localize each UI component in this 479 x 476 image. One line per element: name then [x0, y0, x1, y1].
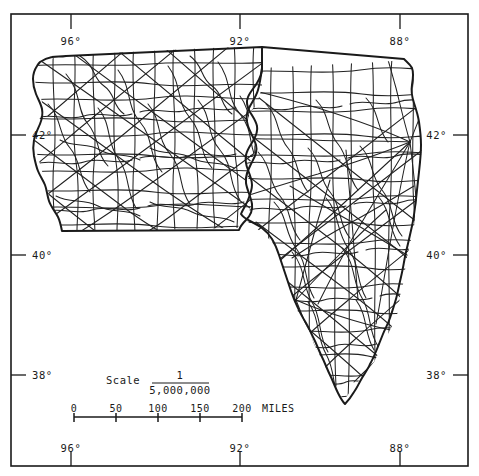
scale-tick-label-150: 150 [190, 403, 210, 414]
scale-tick-label-200: 200 [232, 403, 252, 414]
lon-label-top-88: 88° [390, 35, 411, 47]
lon-label-top-92: 92° [230, 35, 251, 47]
lon-label-bottom-88: 88° [390, 442, 411, 454]
scale-tick-label-0: 0 [71, 403, 78, 414]
scale-units-label: MILES [262, 403, 295, 414]
scale-title-word: Scale [106, 374, 140, 386]
lat-label-right-40: 40° [426, 249, 447, 261]
scale-tick-label-100: 100 [148, 403, 168, 414]
lon-label-bottom-96: 96° [61, 442, 82, 454]
lon-label-bottom-92: 92° [230, 442, 251, 454]
lon-label-top-96: 96° [61, 35, 82, 47]
scale-ratio-denominator: 5,000,000 [149, 384, 210, 396]
lat-label-right-42: 42° [426, 129, 447, 141]
map-figure: 96° 92° 88° 96° 92° 88° 42° 40° 38° 42° … [0, 0, 479, 476]
map-canvas: 96° 92° 88° 96° 92° 88° 42° 40° 38° 42° … [0, 0, 479, 476]
lat-label-left-38: 38° [32, 369, 53, 381]
scale-tick-label-50: 50 [109, 403, 122, 414]
lat-label-right-38: 38° [426, 369, 447, 381]
scale-ratio-numerator: 1 [177, 369, 184, 381]
lat-label-left-40: 40° [32, 249, 53, 261]
